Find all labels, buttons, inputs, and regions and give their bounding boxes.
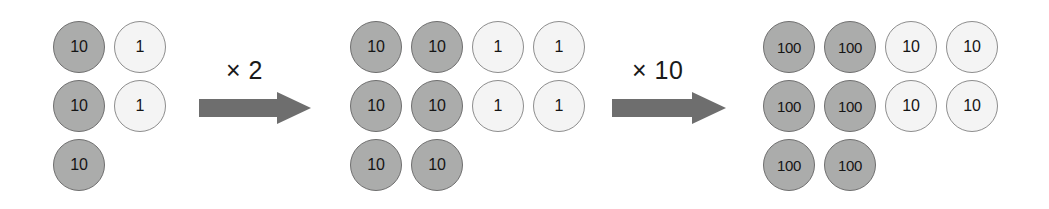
place-value-counter: 10 — [885, 21, 937, 73]
place-value-counter: 10 — [946, 21, 998, 73]
group-3: 10010010010010010010101010 — [0, 0, 1049, 209]
place-value-counter: 100 — [763, 139, 815, 191]
place-value-counter: 100 — [763, 80, 815, 132]
place-value-counter: 10 — [885, 80, 937, 132]
place-value-counter: 100 — [824, 80, 876, 132]
place-value-counter: 100 — [824, 139, 876, 191]
counter-value-label: 10 — [963, 39, 981, 55]
diagram-canvas: 1010101110101010101011111001001001001001… — [0, 0, 1049, 209]
counter-value-label: 10 — [902, 39, 920, 55]
counter-value-label: 10 — [963, 98, 981, 114]
arrow-multiplier-label: × 2 — [226, 56, 263, 85]
right-arrow-icon — [199, 92, 311, 124]
counter-value-label: 100 — [838, 99, 862, 114]
counter-value-label: 100 — [777, 40, 801, 55]
arrow-multiplier-label: × 10 — [632, 56, 683, 85]
right-arrow-icon — [612, 92, 726, 124]
counter-value-label: 100 — [777, 158, 801, 173]
place-value-counter: 100 — [763, 21, 815, 73]
place-value-counter: 10 — [946, 80, 998, 132]
counter-value-label: 100 — [777, 99, 801, 114]
counter-value-label: 10 — [902, 98, 920, 114]
counter-value-label: 100 — [838, 40, 862, 55]
counter-value-label: 100 — [838, 158, 862, 173]
place-value-counter: 100 — [824, 21, 876, 73]
